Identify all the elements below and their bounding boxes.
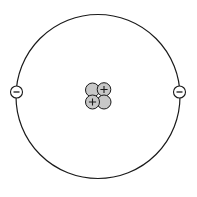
electron-orbit [16, 15, 180, 179]
atom-diagram [0, 0, 197, 197]
electron [174, 86, 186, 98]
electron [11, 86, 23, 98]
proton-particle [86, 95, 100, 109]
proton-particle [97, 83, 111, 97]
nucleus [86, 83, 112, 109]
